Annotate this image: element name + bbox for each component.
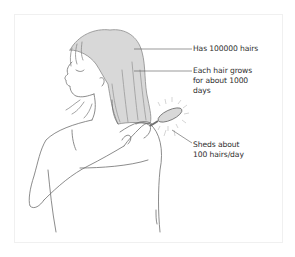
- torso: [29, 120, 92, 208]
- arm: [124, 123, 150, 146]
- face: [65, 62, 94, 97]
- annotation-hair-count: Has 100000 hairs: [193, 44, 258, 54]
- annotation-hair-shedding: Sheds about 100 hairs/day: [193, 140, 244, 160]
- annotation-hair-growth: Each hair grows for about 1000 days: [193, 66, 252, 96]
- woman-brushing-hair-illustration: [0, 0, 295, 257]
- leader-line-shedding: [172, 130, 192, 143]
